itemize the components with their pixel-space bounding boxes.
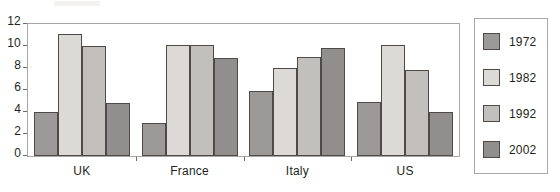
bars-layer [28, 24, 459, 156]
y-axis-tick-label: 8 [14, 59, 21, 71]
bar-italy-1982 [273, 68, 297, 156]
bar-italy-1972 [249, 91, 273, 156]
legend-swatch-1982 [483, 69, 500, 86]
bar-france-1982 [166, 45, 190, 156]
bar-us-1972 [357, 102, 381, 156]
bar-uk-1992 [82, 46, 106, 156]
legend-item-1982[interactable]: 1982 [483, 69, 537, 86]
y-axis-tick-label: 2 [14, 125, 21, 137]
legend-item-2002[interactable]: 2002 [483, 141, 537, 158]
legend-item-1972[interactable]: 1972 [483, 33, 537, 50]
y-axis-tick-label: 12 [7, 15, 21, 27]
bar-italy-2002 [321, 48, 345, 156]
bar-group-france [142, 24, 238, 156]
x-axis-label-uk: UK [73, 164, 90, 178]
bar-italy-1992 [297, 57, 321, 156]
bar-france-1992 [190, 45, 214, 156]
legend-swatch-1992 [483, 105, 500, 122]
bar-uk-1972 [34, 112, 58, 156]
x-axis: UKFranceItalyUS [28, 157, 459, 187]
legend-item-1992[interactable]: 1992 [483, 105, 537, 122]
y-axis-tick-label: 0 [14, 147, 21, 159]
y-axis: 024681012 [0, 23, 27, 157]
x-axis-group-separator [136, 157, 137, 161]
bar-us-1992 [405, 70, 429, 156]
legend-label-2002: 2002 [509, 144, 537, 156]
x-axis-label-us: US [397, 164, 414, 178]
bar-uk-2002 [106, 103, 130, 156]
bar-group-italy [249, 24, 345, 156]
legend-label-1972: 1972 [509, 36, 537, 48]
bar-us-2002 [429, 112, 453, 156]
x-axis-group-separator [244, 157, 245, 161]
chart-legend: 1972198219922002 [474, 18, 548, 174]
y-axis-tick-label: 4 [14, 103, 21, 115]
x-axis-label-france: France [170, 164, 209, 178]
y-axis-tick-label: 10 [7, 37, 21, 49]
legend-label-1992: 1992 [509, 108, 537, 120]
scan-artifact [54, 1, 100, 6]
x-axis-label-italy: Italy [286, 164, 309, 178]
bar-us-1982 [381, 45, 405, 156]
bar-chart-figure: 024681012 UKFranceItalyUS 19721982199220… [0, 0, 560, 192]
y-axis-tick-label: 6 [14, 81, 21, 93]
bar-group-uk [34, 24, 130, 156]
legend-swatch-1972 [483, 33, 500, 50]
bar-group-us [357, 24, 453, 156]
bar-france-2002 [214, 58, 238, 156]
x-axis-group-separator [351, 157, 352, 161]
bar-uk-1982 [58, 34, 82, 156]
legend-swatch-2002 [483, 141, 500, 158]
legend-label-1982: 1982 [509, 72, 537, 84]
bar-france-1972 [142, 123, 166, 156]
